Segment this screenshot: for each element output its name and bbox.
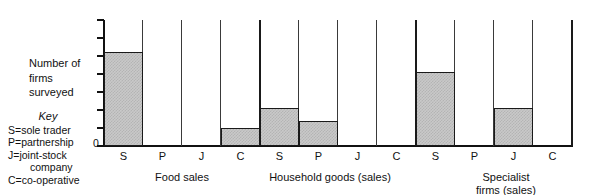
bar-household-goods-sales--s xyxy=(260,108,299,146)
x-axis-label-7: C xyxy=(377,150,416,162)
y-axis-tick xyxy=(97,19,104,21)
category-separator xyxy=(181,20,182,146)
bar-specialist-firms-sales--j xyxy=(494,108,533,146)
x-axis-label-4: S xyxy=(260,150,299,162)
x-axis-label-3: C xyxy=(221,150,260,162)
x-axis-label-8: S xyxy=(416,150,455,162)
key-entry-joint-stock: J=joint-stock xyxy=(8,149,104,162)
key-entry-joint-stock-cont: company xyxy=(8,161,104,174)
group-label-2: Specialist firms (sales) xyxy=(458,171,554,195)
key-entry-partnership: P=partnership xyxy=(8,136,104,149)
x-axis-label-1: P xyxy=(143,150,182,162)
x-axis-label-11: C xyxy=(533,150,572,162)
chart-key: Key S=sole trader P=partnership J=joint-… xyxy=(8,110,104,187)
category-separator xyxy=(376,20,377,146)
y-axis-title: Number of firms surveyed xyxy=(29,56,101,100)
x-axis-label-5: P xyxy=(299,150,338,162)
group-label-0: Food sales xyxy=(122,171,242,184)
y-axis-tick xyxy=(97,109,104,111)
bar-chart-figure: Number of firms surveyed Key S=sole trad… xyxy=(0,0,608,195)
group-label-1: Household goods (sales) xyxy=(240,171,420,184)
key-entry-co-operative: C=co-operative xyxy=(8,174,104,187)
y-axis-tick xyxy=(97,145,104,147)
plot-area xyxy=(104,20,572,146)
x-axis-label-6: J xyxy=(338,150,377,162)
bar-food-sales-s xyxy=(104,52,143,146)
y-axis-tick xyxy=(97,91,104,93)
y-axis-tick xyxy=(97,37,104,39)
y-axis-tick xyxy=(97,73,104,75)
x-axis-label-2: J xyxy=(182,150,221,162)
x-axis-label-9: P xyxy=(455,150,494,162)
category-separator xyxy=(571,20,573,146)
x-axis-label-10: J xyxy=(494,150,533,162)
y-axis-tick xyxy=(97,55,104,57)
key-title: Key xyxy=(8,110,104,123)
bar-specialist-firms-sales--s xyxy=(416,72,455,146)
bar-household-goods-sales--p xyxy=(299,121,338,146)
y-axis-tick xyxy=(97,127,104,129)
key-entry-sole-trader: S=sole trader xyxy=(8,124,104,137)
x-axis-label-0: S xyxy=(104,150,143,162)
bar-food-sales-c xyxy=(221,128,260,146)
